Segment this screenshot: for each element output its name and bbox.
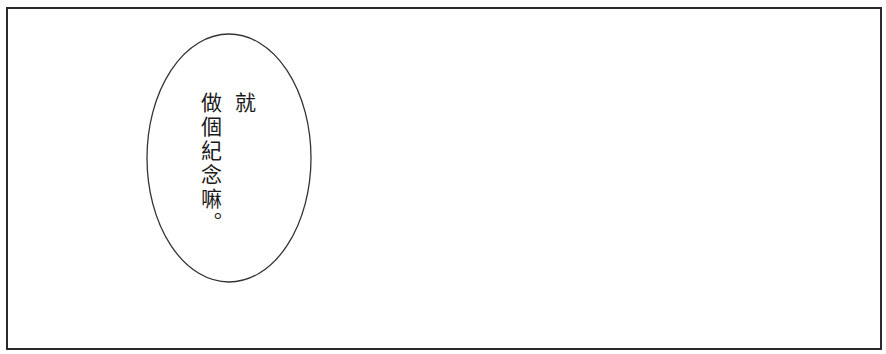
speech-line-1: 就	[233, 92, 255, 116]
speech-bubble	[0, 0, 886, 354]
speech-line-2: 做個紀念嘛。	[199, 92, 221, 236]
